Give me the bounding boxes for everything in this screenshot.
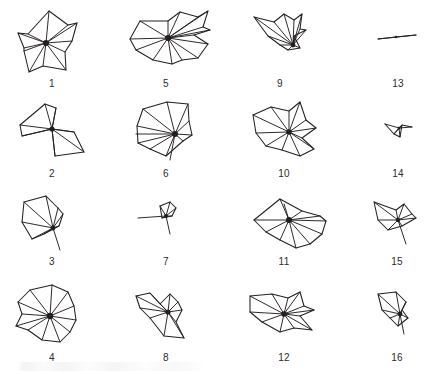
glyph-drawing-8	[130, 288, 202, 348]
glyph-drawing-12	[242, 288, 328, 346]
glyph-drawing-7	[134, 198, 196, 244]
glyph-outline	[378, 292, 408, 326]
glyph-label-14: 14	[370, 168, 426, 180]
glyph-center-hub	[395, 36, 397, 38]
glyph-outline	[22, 196, 63, 239]
glyph-label-6: 6	[120, 168, 212, 180]
glyph-label-11: 11	[240, 256, 328, 268]
glyph-spokes	[254, 199, 326, 248]
figure-canvas: 15913261014371115481216	[0, 0, 430, 374]
glyph-drawing-6	[126, 98, 206, 162]
glyph-center-hub	[49, 126, 54, 131]
glyph-label-2: 2	[8, 168, 96, 180]
glyph-outline	[385, 124, 412, 137]
glyph-spokes	[138, 202, 176, 234]
glyph-center-hub	[165, 309, 170, 314]
glyph-label-13: 13	[370, 78, 426, 90]
glyph-center-hub	[47, 313, 53, 319]
glyph-label-7: 7	[120, 256, 212, 268]
glyph-center-hub	[398, 312, 403, 317]
star-glyph-13	[372, 24, 424, 48]
glyph-drawing-2	[12, 100, 94, 164]
glyph-center-hub	[281, 311, 287, 317]
glyph-center-hub	[165, 35, 171, 41]
glyph-center-hub	[398, 127, 401, 130]
glyph-spokes	[136, 102, 192, 160]
glyph-label-1: 1	[8, 78, 96, 90]
glyph-drawing-3	[10, 192, 94, 256]
glyph-label-10: 10	[240, 168, 328, 180]
glyph-label-9: 9	[244, 78, 316, 90]
glyph-outline	[137, 102, 192, 156]
glyph-spokes	[378, 292, 408, 334]
glyph-drawing-14	[380, 116, 422, 146]
star-glyph-12	[242, 288, 328, 346]
glyph-drawing-1	[8, 4, 96, 76]
glyph-center-hub	[291, 43, 296, 48]
glyph-center-hub	[164, 214, 168, 218]
star-glyph-1	[8, 4, 96, 76]
glyph-spokes	[22, 196, 63, 250]
glyph-spokes	[16, 285, 76, 342]
star-glyph-9	[250, 8, 318, 66]
glyph-label-16: 16	[366, 352, 428, 364]
star-glyph-4	[8, 282, 98, 350]
star-glyph-3	[10, 192, 94, 256]
glyph-center-hub	[43, 40, 49, 46]
star-glyph-16	[368, 288, 426, 346]
glyph-spokes	[250, 292, 314, 332]
star-glyph-8	[130, 288, 202, 348]
glyph-label-5: 5	[120, 78, 212, 90]
glyph-drawing-15	[366, 198, 428, 252]
glyph-label-15: 15	[366, 256, 428, 268]
star-glyph-10	[244, 98, 330, 164]
star-glyph-6	[126, 98, 206, 162]
glyph-drawing-9	[250, 8, 318, 66]
page-edge-artifact	[18, 362, 208, 371]
glyph-center-hub	[396, 218, 400, 222]
glyph-drawing-13	[372, 24, 424, 48]
star-glyph-14	[380, 116, 422, 146]
star-glyph-2	[12, 100, 94, 164]
glyph-label-12: 12	[240, 352, 328, 364]
star-glyph-15	[366, 198, 428, 252]
glyph-center-hub	[286, 129, 292, 135]
glyph-drawing-5	[120, 8, 212, 70]
star-glyph-7	[134, 198, 196, 244]
star-glyph-11	[244, 196, 346, 254]
glyph-drawing-4	[8, 282, 98, 350]
glyph-drawing-11	[244, 196, 346, 254]
glyph-center-hub	[286, 217, 292, 223]
glyph-label-3: 3	[8, 256, 96, 268]
glyph-drawing-16	[368, 288, 426, 346]
star-glyph-5	[120, 8, 212, 70]
glyph-center-hub	[51, 226, 56, 231]
glyph-drawing-10	[244, 98, 330, 164]
glyph-center-hub	[172, 131, 178, 137]
